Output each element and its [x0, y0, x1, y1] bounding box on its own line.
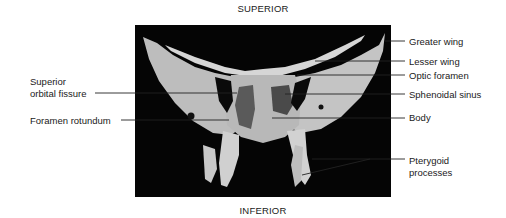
orientation-superior: SUPERIOR — [223, 3, 303, 14]
label-greater-wing: Greater wing — [409, 36, 463, 48]
label-sof-line1: Superior — [30, 76, 87, 88]
label-pterygoid-line1: Pterygoid — [409, 155, 452, 167]
label-pterygoid-processes: Pterygoid processes — [409, 155, 452, 178]
sphenoid-bone-illustration — [135, 25, 391, 197]
label-foramen-rotundum: Foramen rotundum — [30, 115, 111, 127]
label-sphenoidal-sinus: Sphenoidal sinus — [409, 89, 481, 101]
label-pterygoid-line2: processes — [409, 167, 452, 179]
label-sof-line2: orbital fissure — [30, 88, 87, 100]
label-body: Body — [409, 112, 431, 124]
label-optic-foramen: Optic foramen — [409, 70, 469, 82]
sphenoid-bone-photo — [135, 25, 391, 197]
label-lesser-wing: Lesser wing — [409, 56, 460, 68]
orientation-inferior: INFERIOR — [223, 205, 303, 216]
label-superior-orbital-fissure: Superior orbital fissure — [30, 76, 87, 99]
